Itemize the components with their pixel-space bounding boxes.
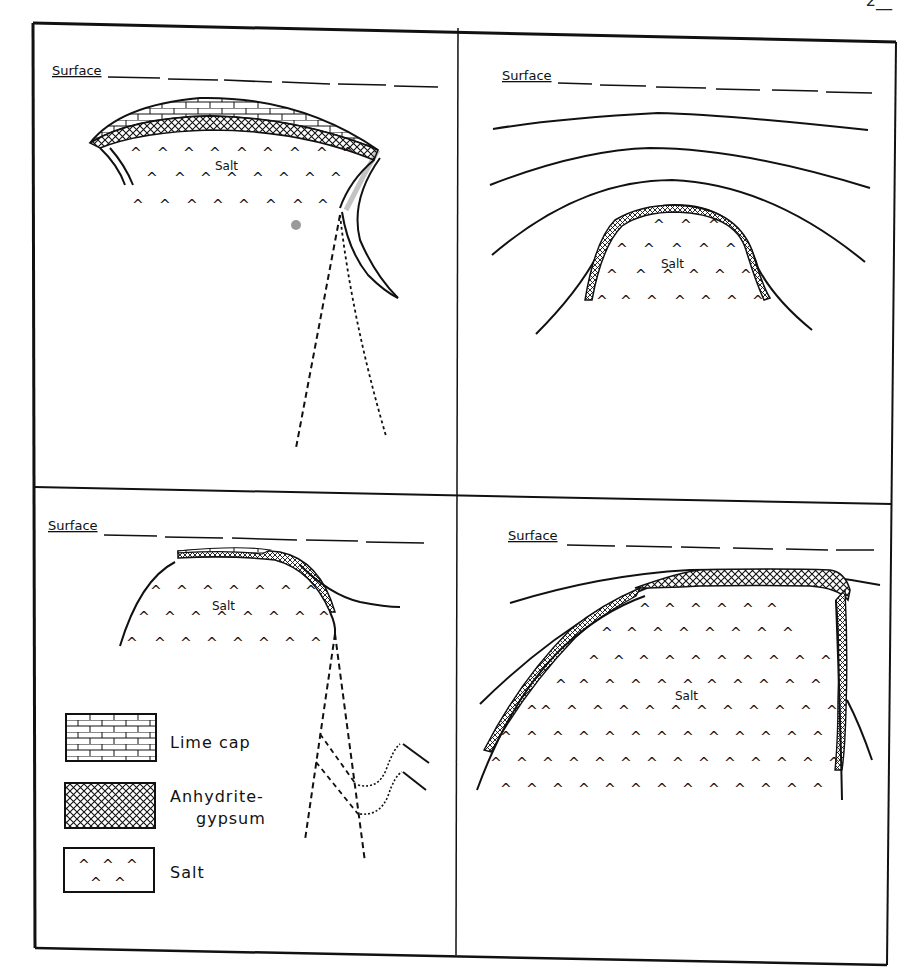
svg-text:^: ^: [540, 703, 552, 719]
svg-text:^: ^: [294, 609, 306, 625]
svg-text:^: ^: [542, 755, 554, 771]
svg-text:^: ^: [638, 653, 650, 669]
bed-offset: [320, 734, 355, 783]
svg-text:^: ^: [653, 217, 665, 233]
svg-text:^: ^: [613, 653, 625, 669]
svg-text:^: ^: [342, 145, 354, 161]
svg-text:^: ^: [742, 653, 754, 669]
svg-text:^: ^: [552, 729, 564, 745]
svg-text:^: ^: [330, 170, 342, 186]
svg-text:^: ^: [292, 197, 304, 213]
svg-text:^: ^: [262, 145, 274, 161]
svg-text:^: ^: [268, 609, 280, 625]
svg-text:^: ^: [768, 653, 780, 669]
svg-text:^: ^: [616, 241, 628, 257]
svg-text:^: ^: [568, 755, 580, 771]
svg-text:^: ^: [578, 677, 590, 693]
svg-text:^: ^: [672, 755, 684, 771]
svg-text:^: ^: [232, 635, 244, 651]
svg-text:^: ^: [682, 781, 694, 797]
strata-line: [493, 113, 868, 130]
svg-text:^: ^: [643, 241, 655, 257]
svg-text:^: ^: [708, 781, 720, 797]
svg-text:^: ^: [604, 677, 616, 693]
svg-text:^: ^: [639, 601, 651, 617]
svg-text:^: ^: [800, 703, 812, 719]
svg-text:^: ^: [278, 170, 290, 186]
svg-text:^: ^: [280, 583, 292, 599]
svg-text:^: ^: [212, 197, 224, 213]
svg-text:^: ^: [690, 653, 702, 669]
svg-text:^: ^: [635, 267, 647, 283]
surface-dashed-line: [567, 545, 874, 550]
svg-text:^: ^: [704, 625, 716, 641]
svg-text:^: ^: [820, 653, 832, 669]
svg-text:^: ^: [740, 267, 752, 283]
legend-item-lime-cap: Lime cap: [66, 714, 251, 761]
svg-text:^: ^: [678, 625, 690, 641]
svg-text:^: ^: [618, 703, 630, 719]
svg-text:^: ^: [708, 729, 720, 745]
svg-text:^: ^: [646, 755, 658, 771]
svg-text:^: ^: [516, 755, 528, 771]
svg-text:^: ^: [228, 583, 240, 599]
svg-text:^: ^: [730, 625, 742, 641]
svg-text:^: ^: [183, 145, 195, 161]
legend-label-lime-cap: Lime cap: [170, 733, 251, 752]
svg-text:^: ^: [318, 609, 330, 625]
horizontal-divider: [34, 487, 892, 504]
svg-text:^: ^: [588, 653, 600, 669]
svg-text:^: ^: [126, 857, 138, 873]
svg-text:^: ^: [578, 781, 590, 797]
svg-text:^: ^: [490, 755, 502, 771]
svg-text:^: ^: [726, 293, 738, 309]
svg-text:^: ^: [786, 781, 798, 797]
svg-text:^: ^: [174, 170, 186, 186]
svg-text:^: ^: [238, 197, 250, 213]
svg-text:^: ^: [180, 635, 192, 651]
svg-text:^: ^: [725, 241, 737, 257]
smudge: [291, 220, 301, 230]
svg-text:^: ^: [606, 267, 618, 283]
svg-text:^: ^: [782, 625, 794, 641]
svg-text:^: ^: [592, 703, 604, 719]
svg-text:^: ^: [700, 293, 712, 309]
legend-item-anhydrite: Anhydrite- gypsum: [65, 783, 266, 828]
svg-text:^: ^: [812, 781, 824, 797]
svg-text:^: ^: [758, 677, 770, 693]
svg-text:^: ^: [596, 293, 608, 309]
svg-text:^: ^: [316, 145, 328, 161]
svg-text:^: ^: [722, 703, 734, 719]
svg-text:^: ^: [766, 601, 778, 617]
svg-text:^: ^: [656, 781, 668, 797]
svg-text:^: ^: [620, 755, 632, 771]
svg-text:^: ^: [706, 677, 718, 693]
panel-top-left: Surface ^^^^^^^^^ ^^^^^^^^ ^^^^^^^^ Salt: [52, 63, 438, 448]
svg-text:^: ^: [190, 609, 202, 625]
bed-offset: [316, 762, 358, 814]
svg-text:^: ^: [630, 781, 642, 797]
surface-label: Surface: [508, 528, 558, 543]
svg-text:^: ^: [126, 635, 138, 651]
svg-text:^: ^: [604, 781, 616, 797]
svg-text:^: ^: [690, 601, 702, 617]
svg-text:^: ^: [304, 170, 316, 186]
legend-label-salt: Salt: [170, 863, 205, 882]
surface-label: Surface: [52, 63, 102, 78]
salt-dome-figure: Surface ^^^^^^^^^ ^^^^^^^^ ^^^^^^^^ Salt…: [0, 0, 910, 976]
svg-text:^: ^: [774, 703, 786, 719]
svg-text:^: ^: [756, 625, 768, 641]
svg-text:^: ^: [258, 635, 270, 651]
legend: Lime cap Anhydrite- gypsum ^^^ ^^ Salt: [64, 714, 266, 892]
svg-text:^: ^: [566, 703, 578, 719]
svg-text:^: ^: [289, 145, 301, 161]
svg-text:^: ^: [78, 857, 90, 873]
svg-text:^: ^: [828, 755, 840, 771]
svg-text:^: ^: [760, 729, 772, 745]
svg-text:^: ^: [716, 653, 728, 669]
svg-text:^: ^: [644, 703, 656, 719]
legend-label-anhydrite-1: Anhydrite-: [170, 787, 264, 806]
svg-text:^: ^: [254, 583, 266, 599]
svg-text:^: ^: [674, 293, 686, 309]
svg-text:^: ^: [812, 729, 824, 745]
